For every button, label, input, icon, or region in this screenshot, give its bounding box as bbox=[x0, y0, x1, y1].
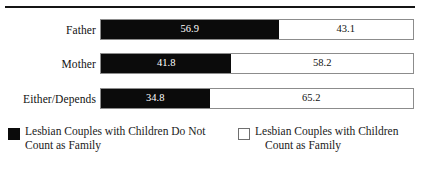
legend-label-line-2: Count as Family bbox=[25, 138, 232, 152]
bar-value-label: 34.8 bbox=[146, 93, 164, 104]
legend: Lesbian Couples with Children Do Not Cou… bbox=[0, 124, 424, 168]
stacked-bar-track-mother: 41.8 58.2 bbox=[100, 53, 414, 74]
filled-black-square-icon bbox=[8, 128, 20, 140]
plot-area: Father 56.9 43.1 Mother 41.8 58.2 bbox=[0, 14, 424, 116]
category-label-mother: Mother bbox=[0, 53, 96, 75]
bar-value-label: 56.9 bbox=[181, 24, 199, 35]
category-label-father: Father bbox=[0, 19, 96, 41]
bar-segment-light: 65.2 bbox=[210, 89, 413, 108]
bar-segment-dark: 41.8 bbox=[101, 54, 231, 73]
bar-value-label: 58.2 bbox=[313, 58, 331, 69]
bar-segment-dark: 56.9 bbox=[101, 20, 279, 39]
bar-segment-light: 58.2 bbox=[231, 54, 413, 73]
bar-row: Mother 41.8 58.2 bbox=[0, 53, 424, 75]
bar-value-label: 41.8 bbox=[157, 58, 175, 69]
top-divider-rule bbox=[5, 6, 415, 8]
category-label-either-depends: Either/Depends bbox=[0, 88, 96, 110]
legend-label: Lesbian Couples with Children Count as F… bbox=[255, 124, 422, 152]
legend-item-do-not-count: Lesbian Couples with Children Do Not Cou… bbox=[8, 124, 232, 152]
bar-segment-light: 43.1 bbox=[279, 20, 413, 39]
bar-segment-dark: 34.8 bbox=[101, 89, 210, 108]
legend-item-count-as-family: Lesbian Couples with Children Count as F… bbox=[238, 124, 422, 152]
bar-value-label: 65.2 bbox=[302, 93, 320, 104]
empty-white-square-icon bbox=[238, 128, 250, 140]
bar-row: Father 56.9 43.1 bbox=[0, 19, 424, 41]
stacked-bar-chart: Father 56.9 43.1 Mother 41.8 58.2 bbox=[0, 0, 424, 174]
legend-label-line-2: Count as Family bbox=[265, 138, 422, 152]
legend-label-line-1: Lesbian Couples with Children Do Not bbox=[25, 125, 205, 137]
bar-row: Either/Depends 34.8 65.2 bbox=[0, 88, 424, 110]
legend-label: Lesbian Couples with Children Do Not Cou… bbox=[25, 124, 232, 152]
stacked-bar-track-father: 56.9 43.1 bbox=[100, 19, 414, 40]
stacked-bar-track-either-depends: 34.8 65.2 bbox=[100, 88, 414, 109]
bar-value-label: 43.1 bbox=[337, 24, 355, 35]
legend-label-line-1: Lesbian Couples with Children bbox=[255, 125, 398, 137]
